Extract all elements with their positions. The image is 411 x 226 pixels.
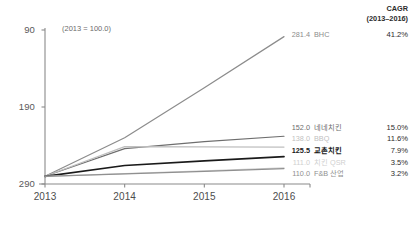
cagr-value: 11.6% bbox=[352, 135, 408, 143]
series-endpoint-value: 110.0 bbox=[288, 170, 310, 177]
series-endpoint-label: 281.4BHC bbox=[288, 31, 329, 38]
series-endpoint-value: 125.5 bbox=[288, 147, 310, 154]
series-endpoint-label: 111.0치킨 QSR bbox=[288, 159, 346, 166]
index-base-note: (2013 = 100.0) bbox=[62, 24, 111, 33]
cagr-value: 3.2% bbox=[352, 170, 408, 178]
series-endpoint-value: 138.0 bbox=[288, 135, 310, 142]
series-endpoint-name: F&B 산업 bbox=[314, 170, 344, 177]
series-endpoint-label: 110.0F&B 산업 bbox=[288, 170, 344, 177]
y-axis-tick-label: 290 bbox=[9, 178, 35, 189]
series-endpoint-value: 111.0 bbox=[288, 159, 310, 166]
x-axis-tick-label: 2014 bbox=[105, 191, 145, 202]
y-axis-tick-label: 90 bbox=[9, 24, 35, 35]
series-line-F&B 산업 bbox=[45, 169, 284, 177]
series-endpoint-name: 교촌치킨 bbox=[314, 147, 342, 154]
cagr-column-header: CAGR (2013–2016) bbox=[336, 4, 408, 23]
series-endpoint-name: BBQ bbox=[314, 135, 329, 142]
series-endpoint-value: 281.4 bbox=[288, 31, 310, 38]
cagr-value: 3.5% bbox=[352, 159, 408, 167]
series-line-BHC bbox=[45, 37, 284, 177]
series-endpoint-label: 138.0BBQ bbox=[288, 135, 329, 142]
series-endpoint-name: 치킨 QSR bbox=[314, 159, 346, 166]
series-endpoint-label: 152.0네네치킨 bbox=[288, 124, 342, 131]
x-axis-tick-label: 2015 bbox=[184, 191, 224, 202]
cagr-header-line2: (2013–2016) bbox=[336, 14, 408, 24]
cagr-header-line1: CAGR bbox=[336, 4, 408, 14]
series-endpoint-name: BHC bbox=[314, 31, 329, 38]
y-axis-tick-label: 190 bbox=[9, 101, 35, 112]
chart-series-layer bbox=[45, 37, 284, 177]
x-axis-tick-label: 2016 bbox=[264, 191, 304, 202]
cagr-value: 7.9% bbox=[352, 147, 408, 155]
cagr-value: 41.2% bbox=[352, 31, 408, 39]
series-endpoint-label: 125.5교촌치킨 bbox=[288, 147, 342, 154]
cagr-value: 15.0% bbox=[352, 124, 408, 132]
chart-root: (2013 = 100.0) CAGR (2013–2016) 29019090… bbox=[0, 0, 411, 226]
series-endpoint-value: 152.0 bbox=[288, 124, 310, 131]
x-axis-tick-label: 2013 bbox=[25, 191, 65, 202]
series-endpoint-name: 네네치킨 bbox=[314, 124, 342, 131]
